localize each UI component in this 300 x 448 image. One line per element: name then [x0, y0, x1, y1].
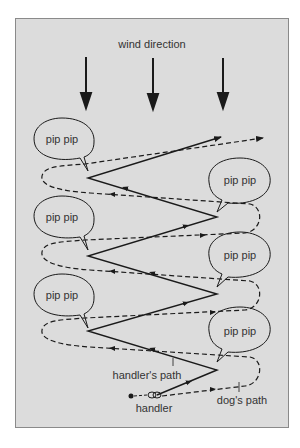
svg-text:pip pip: pip pip: [224, 249, 256, 261]
arrow-down-icon: [148, 94, 158, 109]
wind-direction-label: wind direction: [117, 38, 185, 50]
handlers-path-line: [88, 137, 221, 395]
speech-bubble: pip pip: [34, 118, 94, 171]
svg-text:pip pip: pip pip: [224, 325, 256, 337]
wind-arrows: [81, 57, 228, 109]
arrow-down-icon: [218, 93, 228, 108]
speech-bubble: pip pip: [209, 307, 270, 362]
svg-text:pip pip: pip pip: [46, 211, 78, 223]
svg-text:pip pip: pip pip: [46, 133, 78, 145]
handler-symbol: [129, 392, 162, 399]
speech-bubble: pip pip: [34, 196, 94, 250]
svg-text:pip pip: pip pip: [224, 174, 256, 186]
search-pattern-diagram: wind direction pip pip pip pip pip pip p…: [0, 0, 300, 448]
arrow-down-icon: [81, 93, 91, 108]
svg-text:pip pip: pip pip: [46, 289, 78, 301]
handler-label: handler: [136, 402, 173, 414]
speech-bubble: pip pip: [34, 274, 94, 328]
speech-bubble: pip pip: [209, 158, 270, 212]
handlers-path-label: handler's path: [113, 369, 182, 381]
dogs-path-label: dog's path: [217, 394, 267, 406]
